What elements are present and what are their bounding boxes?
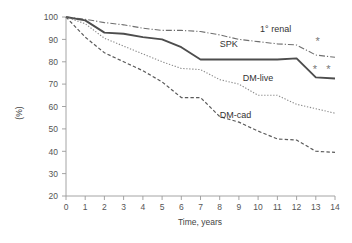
y-axis-title: (%) — [14, 106, 24, 119]
x-tick-group: 9 — [237, 196, 242, 212]
significance-asterisk: * — [316, 35, 321, 47]
x-axis-ticks: 0 1 2 3 4 5 6 — [64, 196, 340, 212]
x-tick-label: 3 — [121, 202, 126, 212]
x-tick-group: 3 — [121, 196, 126, 212]
series-line-dm-cad — [66, 17, 335, 152]
y-tick-group: 70 — [49, 79, 66, 89]
x-tick-label: 13 — [311, 202, 321, 212]
x-tick-group: 8 — [217, 196, 222, 212]
x-tick-group: 5 — [160, 196, 165, 212]
y-tick-label: 100 — [44, 12, 58, 22]
x-tick-group: 10 — [253, 196, 263, 212]
x-tick-label: 9 — [237, 202, 242, 212]
y-tick-label: 90 — [49, 35, 59, 45]
x-tick-group: 14 — [330, 196, 340, 212]
significance-asterisk: * — [326, 63, 331, 75]
y-tick-group: 100 — [44, 12, 66, 22]
series-line-primary-renal — [66, 17, 335, 57]
annotations-group: * * * — [313, 35, 331, 75]
x-tick-label: 2 — [102, 202, 107, 212]
x-tick-group: 11 — [273, 196, 282, 212]
x-tick-label: 5 — [160, 202, 165, 212]
x-tick-label: 12 — [292, 202, 302, 212]
y-tick-group: 90 — [49, 35, 66, 45]
series-line-spk — [66, 17, 335, 79]
x-tick-group: 4 — [141, 196, 146, 212]
x-tick-label: 14 — [330, 202, 340, 212]
y-tick-group: 30 — [49, 169, 66, 179]
y-tick-group: 50 — [49, 124, 66, 134]
x-tick-group: 2 — [102, 196, 107, 212]
y-tick-label: 60 — [49, 102, 59, 112]
y-tick-label: 40 — [49, 147, 59, 157]
y-tick-label: 50 — [49, 124, 59, 134]
y-tick-label: 30 — [49, 169, 59, 179]
y-axis-ticks: 100 90 80 70 60 50 — [44, 12, 66, 201]
x-tick-group: 13 — [311, 196, 321, 212]
x-tick-group: 7 — [198, 196, 203, 212]
x-tick-label: 4 — [141, 202, 146, 212]
significance-asterisk: * — [313, 63, 318, 75]
y-tick-group: 40 — [49, 147, 66, 157]
x-tick-label: 1 — [83, 202, 88, 212]
chart-figure: 100 90 80 70 60 50 — [0, 0, 352, 243]
y-tick-group: 20 — [49, 191, 66, 201]
x-tick-label: 6 — [179, 202, 184, 212]
survival-line-chart: 100 90 80 70 60 50 — [0, 0, 352, 243]
x-tick-label: 7 — [198, 202, 203, 212]
x-tick-group: 1 — [83, 196, 88, 212]
series-label-spk: SPK — [220, 39, 238, 49]
y-tick-label: 20 — [49, 191, 59, 201]
y-tick-group: 60 — [49, 102, 66, 112]
x-tick-label: 10 — [253, 202, 263, 212]
x-tick-group: 6 — [179, 196, 184, 212]
x-tick-label: 11 — [273, 202, 282, 212]
y-tick-label: 70 — [49, 79, 59, 89]
series-labels-group: 1° renal SPK DM-live DM-cad — [220, 24, 291, 120]
x-axis-title: Time, years — [178, 217, 222, 227]
series-label-dm-cad: DM-cad — [220, 110, 252, 120]
x-tick-label: 0 — [64, 202, 69, 212]
y-tick-label: 80 — [49, 57, 59, 67]
x-tick-label: 8 — [217, 202, 222, 212]
series-label-dm-live: DM-live — [243, 73, 274, 83]
chart-series-group — [66, 17, 335, 152]
y-tick-group: 80 — [49, 57, 66, 67]
x-tick-group: 0 — [64, 196, 69, 212]
chart-axes — [66, 17, 335, 196]
x-tick-group: 12 — [292, 196, 302, 212]
series-label-primary-renal: 1° renal — [260, 24, 291, 34]
